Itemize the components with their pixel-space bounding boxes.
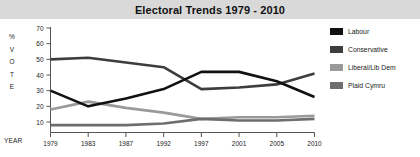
legend-item-liberal-lib-dem: Liberal/Lib Dem [330, 59, 418, 76]
y-axis-tick-label: 30 [36, 87, 44, 94]
legend-item-conservative: Conservative [330, 41, 418, 58]
page-title: Electoral Trends 1979 - 2010 [135, 4, 285, 16]
y-axis-tick-label: 50 [36, 56, 44, 63]
legend-item-label: Labour [348, 28, 369, 35]
series-line-liberal-lib-dem [51, 102, 315, 119]
legend-swatch-icon [330, 28, 343, 35]
x-axis-tick-label: 2001 [232, 140, 247, 147]
title-banner: Electoral Trends 1979 - 2010 [0, 0, 420, 19]
series-line-plaid-cymru [51, 119, 315, 125]
series-lines [51, 58, 315, 125]
x-axis-tick-label: 1997 [194, 140, 209, 147]
y-axis-tick-label: 70 [36, 25, 44, 32]
x-axis-tick-label: 1987 [119, 140, 134, 147]
legend-swatch-icon [330, 46, 343, 53]
x-axis-tick-label: 2005 [270, 140, 285, 147]
legend-item-labour: Labour [330, 23, 418, 40]
legend-item-label: Conservative [348, 46, 388, 53]
legend: Labour Conservative Liberal/Lib Dem Plai… [330, 23, 418, 95]
x-axis-tick-label: 1979 [43, 140, 58, 147]
y-axis-tick-label: 60 [36, 40, 44, 47]
legend-item-label: Plaid Cymru [348, 82, 385, 89]
legend-swatch-icon [330, 82, 343, 89]
x-axis-tick-label: 2010 [307, 140, 322, 147]
y-axis-tick-label: 20 [36, 103, 44, 110]
x-axis-tick-label: 1983 [81, 140, 96, 147]
legend-item-label: Liberal/Lib Dem [348, 64, 396, 71]
series-line-conservative [51, 58, 315, 89]
legend-swatch-icon [330, 64, 343, 71]
x-axis-ticks: 19791983198719921997200120052010 [43, 133, 322, 148]
y-axis-ticks: 10203040506070 [36, 25, 50, 126]
x-axis-tick-label: 1992 [156, 140, 171, 147]
y-axis-tick-label: 40 [36, 72, 44, 79]
legend-item-plaid-cymru: Plaid Cymru [330, 77, 418, 94]
y-axis-tick-label: 10 [36, 119, 44, 126]
